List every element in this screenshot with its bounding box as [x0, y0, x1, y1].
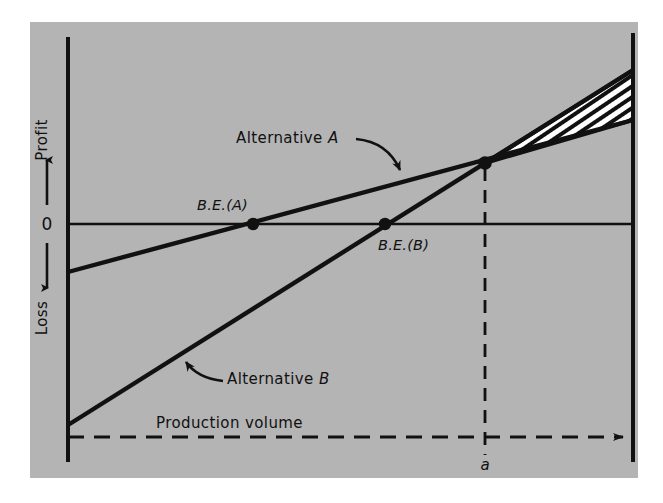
break-even-b-marker — [379, 218, 391, 230]
alternative-a-leader-arrow-icon — [356, 139, 400, 170]
alternative-a-label-text: Alternative — [236, 129, 328, 147]
x-axis-label: Production volume — [156, 414, 303, 432]
y-axis-profit-label: Profit — [33, 119, 51, 161]
y-axis-zero-label: 0 — [42, 214, 53, 234]
alternative-a-label-italic: A — [327, 129, 339, 147]
break-even-b-label: B.E.(B) — [378, 237, 429, 253]
break-even-chart: Profit 0 Loss B.E.(A) B.E.(B) Alternativ… — [0, 0, 663, 503]
y-axis-loss-label: Loss — [33, 301, 51, 336]
figure-container: Profit 0 Loss B.E.(A) B.E.(B) Alternativ… — [0, 0, 663, 503]
crossover-marker — [478, 156, 492, 170]
break-even-a-label: B.E.(A) — [197, 197, 248, 213]
alternative-b-label-text: Alternative — [227, 370, 319, 388]
break-even-a-marker — [247, 218, 259, 230]
crossover-tick-label: a — [480, 456, 489, 474]
alternative-a-label: Alternative A — [236, 129, 339, 147]
alternative-b-leader-arrow-icon — [186, 362, 223, 381]
alternative-b-label-italic: B — [319, 370, 330, 388]
alternative-b-label: Alternative B — [227, 370, 330, 388]
